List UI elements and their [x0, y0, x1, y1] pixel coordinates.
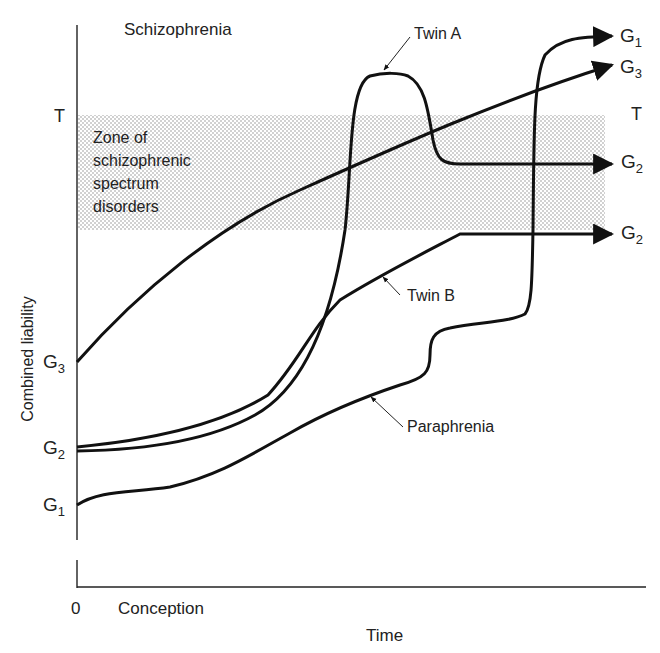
twin-a-leader [384, 37, 410, 70]
right-end-g2-lower-sub: 2 [636, 232, 643, 247]
left-tick-g3: G3 [43, 351, 65, 376]
twin-b-label: Twin B [407, 287, 455, 305]
right-end-g3-base: G [620, 56, 635, 77]
x-start-label: Conception [118, 599, 204, 619]
zone-label-line-4: disorders [93, 195, 191, 218]
right-end-g2-lower: G2 [621, 222, 643, 247]
right-end-g2-upper: G2 [621, 151, 643, 176]
twin-a-label: Twin A [414, 25, 461, 43]
right-end-g1-sub: 1 [635, 35, 642, 50]
left-tick-g3-sub: 3 [58, 361, 65, 376]
paraphrenia-label: Paraphrenia [407, 418, 494, 436]
right-end-g2-upper-sub: 2 [636, 161, 643, 176]
twin-b-leader [383, 277, 400, 295]
right-end-g1: G1 [620, 25, 642, 50]
left-tick-g1: G1 [43, 494, 65, 519]
x-axis-label: Time [366, 626, 403, 646]
right-end-g1-base: G [620, 25, 635, 46]
left-tick-g2: G2 [43, 437, 65, 462]
zone-label: Zone of schizophrenic spectrum disorders [93, 126, 191, 218]
left-tick-g1-base: G [43, 494, 58, 515]
right-end-g2-lower-base: G [621, 222, 636, 243]
schizophrenia-label: Schizophrenia [124, 20, 232, 40]
left-tick-g2-sub: 2 [58, 447, 65, 462]
right-end-g2-upper-base: G [621, 151, 636, 172]
left-tick-g2-base: G [43, 437, 58, 458]
right-end-g3: G3 [620, 56, 642, 81]
zone-label-line-1: Zone of [93, 126, 191, 149]
y-axis-label: Combined liability [19, 289, 37, 429]
right-end-g3-sub: 3 [635, 66, 642, 81]
liability-diagram [0, 0, 660, 653]
threshold-right-label: T [631, 104, 642, 125]
left-tick-g3-base: G [43, 351, 58, 372]
paraphrenia-leader [371, 397, 403, 427]
zone-label-line-3: spectrum [93, 172, 191, 195]
left-tick-g1-sub: 1 [58, 504, 65, 519]
threshold-left-label: T [54, 106, 65, 127]
x-origin-label: 0 [71, 599, 80, 619]
zone-label-line-2: schizophrenic [93, 149, 191, 172]
